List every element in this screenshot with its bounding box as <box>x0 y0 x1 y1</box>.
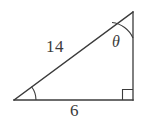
theta-angle-label: θ <box>112 34 120 50</box>
hypotenuse-length-label: 14 <box>46 38 64 55</box>
triangle-figure: 14 6 θ <box>0 0 145 121</box>
base-angle-arc-icon <box>32 87 36 100</box>
right-angle-marker-icon <box>123 90 134 101</box>
base-length-label: 6 <box>70 102 79 119</box>
